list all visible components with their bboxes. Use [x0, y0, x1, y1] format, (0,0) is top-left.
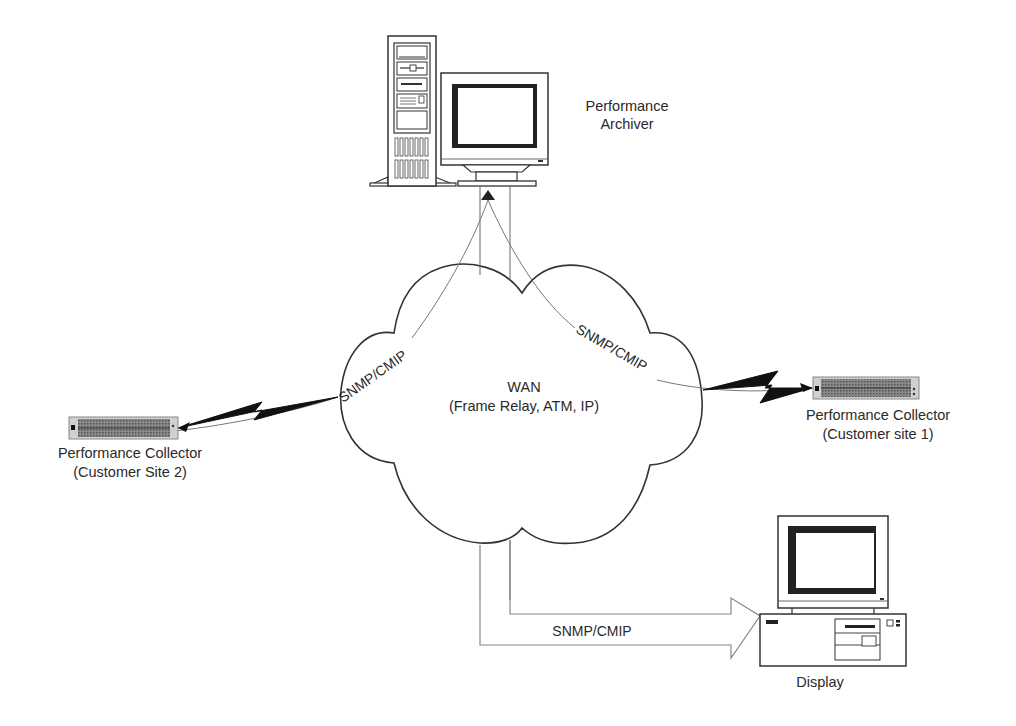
archiver-label-line1: Performance	[585, 98, 668, 114]
collector-site1-label-line2: (Customer site 1)	[822, 426, 933, 442]
collector-site1-label-line1: Performance Collector	[806, 407, 950, 423]
collector-site2-label-line1: Performance Collector	[58, 445, 202, 461]
display-link-arrow-icon	[480, 540, 760, 658]
collector-site2-device-icon	[69, 417, 178, 439]
wan-label-line1: WAN	[507, 379, 540, 395]
display-link-protocol-label: SNMP/CMIP	[552, 623, 631, 639]
wan-label-line2: (Frame Relay, ATM, IP)	[449, 398, 599, 414]
archiver-label-line2: Archiver	[600, 116, 653, 132]
archiver-arrowhead-icon	[481, 190, 495, 200]
display-label: Display	[796, 674, 844, 690]
archiver-monitor-icon	[441, 73, 548, 186]
display-computer-icon	[760, 516, 906, 666]
network-diagram: Performance Archiver WAN (Frame Relay, A…	[0, 0, 1016, 726]
collector-site2-label-line2: (Customer Site 2)	[73, 464, 187, 480]
site1-wan-link-bolt-icon	[703, 371, 812, 403]
collector-site1-device-icon	[813, 377, 919, 399]
site2-wan-link-bolt-icon	[178, 397, 338, 428]
